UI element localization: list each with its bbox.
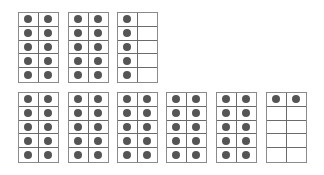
- counter-dot-icon: [272, 95, 280, 103]
- counter-dot-icon: [123, 137, 131, 145]
- frame-cell: [267, 148, 287, 162]
- frame-cell: [39, 121, 59, 135]
- frame-cell: [187, 107, 207, 121]
- counter-dot-icon: [123, 71, 131, 79]
- frame-cell: [217, 93, 237, 107]
- counter-dot-icon: [94, 123, 102, 131]
- frame-cell: [19, 121, 39, 135]
- counter-dot-icon: [192, 95, 200, 103]
- frame-cell: [237, 148, 257, 162]
- counter-dot-icon: [44, 137, 52, 145]
- frame-cell: [167, 148, 187, 162]
- frame-cell: [19, 27, 39, 41]
- counter-dot-icon: [222, 123, 230, 131]
- counter-dot-icon: [143, 137, 151, 145]
- frame-cell: [69, 13, 89, 27]
- counter-dot-icon: [192, 151, 200, 159]
- frame-cell: [39, 107, 59, 121]
- frame-cell: [237, 121, 257, 135]
- frame-cell: [138, 41, 158, 55]
- frame-cell: [118, 121, 138, 135]
- counter-dot-icon: [24, 29, 32, 37]
- frame-cell: [89, 93, 109, 107]
- frame-cell: [138, 27, 158, 41]
- counter-dot-icon: [44, 43, 52, 51]
- frame-cell: [19, 134, 39, 148]
- counter-dot-icon: [222, 109, 230, 117]
- counter-dot-icon: [242, 109, 250, 117]
- frame-cell: [138, 13, 158, 27]
- frame-cell: [39, 27, 59, 41]
- frame-cell: [69, 27, 89, 41]
- counter-dot-icon: [74, 123, 82, 131]
- counter-dot-icon: [24, 123, 32, 131]
- frame-cell: [287, 121, 307, 135]
- frame-cell: [167, 134, 187, 148]
- frame-cell: [287, 107, 307, 121]
- frame-cell: [267, 93, 287, 107]
- frame-cell: [118, 107, 138, 121]
- frame-cell: [217, 121, 237, 135]
- counter-dot-icon: [44, 109, 52, 117]
- frame-cell: [167, 93, 187, 107]
- ten-frame-row2-3: [117, 92, 158, 163]
- counter-dot-icon: [172, 95, 180, 103]
- frame-cell: [39, 41, 59, 55]
- frame-cell: [89, 27, 109, 41]
- counter-dot-icon: [123, 109, 131, 117]
- counter-dot-icon: [192, 137, 200, 145]
- frame-cell: [217, 134, 237, 148]
- frame-cell: [287, 134, 307, 148]
- frame-cell: [89, 107, 109, 121]
- frame-cell: [138, 134, 158, 148]
- frame-cell: [89, 121, 109, 135]
- frame-cell: [39, 13, 59, 27]
- counter-dot-icon: [172, 123, 180, 131]
- counter-dot-icon: [94, 109, 102, 117]
- counter-dot-icon: [44, 123, 52, 131]
- counter-dot-icon: [24, 71, 32, 79]
- frame-cell: [89, 13, 109, 27]
- counter-dot-icon: [24, 15, 32, 23]
- frame-cell: [19, 93, 39, 107]
- frame-cell: [138, 148, 158, 162]
- frame-cell: [237, 107, 257, 121]
- counter-dot-icon: [44, 15, 52, 23]
- frame-cell: [19, 41, 39, 55]
- counter-dot-icon: [74, 137, 82, 145]
- ten-frame-row1-3: [117, 12, 158, 83]
- frame-cell: [19, 68, 39, 82]
- counter-dot-icon: [143, 95, 151, 103]
- frame-cell: [19, 13, 39, 27]
- frame-cell: [187, 121, 207, 135]
- counter-dot-icon: [44, 71, 52, 79]
- counter-dot-icon: [44, 29, 52, 37]
- frame-cell: [138, 93, 158, 107]
- counter-dot-icon: [44, 95, 52, 103]
- frame-cell: [19, 54, 39, 68]
- counter-dot-icon: [94, 29, 102, 37]
- counter-dot-icon: [94, 95, 102, 103]
- counter-dot-icon: [74, 95, 82, 103]
- frame-cell: [69, 148, 89, 162]
- frame-cell: [89, 41, 109, 55]
- counter-dot-icon: [123, 95, 131, 103]
- counter-dot-icon: [242, 151, 250, 159]
- counter-dot-icon: [24, 95, 32, 103]
- frame-cell: [19, 107, 39, 121]
- counter-dot-icon: [24, 57, 32, 65]
- frame-cell: [69, 134, 89, 148]
- frame-cell: [69, 121, 89, 135]
- frame-cell: [39, 148, 59, 162]
- frame-cell: [118, 27, 138, 41]
- counter-dot-icon: [24, 109, 32, 117]
- frame-cell: [267, 134, 287, 148]
- frame-cell: [39, 68, 59, 82]
- frame-cell: [118, 41, 138, 55]
- counter-dot-icon: [292, 95, 300, 103]
- frame-cell: [237, 93, 257, 107]
- frame-cell: [138, 68, 158, 82]
- counter-dot-icon: [222, 137, 230, 145]
- ten-frame-row2-6: [266, 92, 307, 163]
- counter-dot-icon: [74, 109, 82, 117]
